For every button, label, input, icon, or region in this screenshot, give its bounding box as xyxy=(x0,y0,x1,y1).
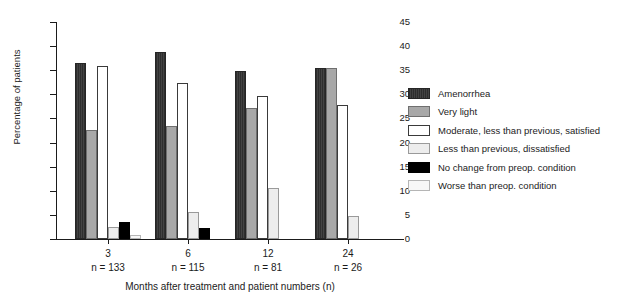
x-group-label: 24 xyxy=(313,248,383,259)
y-tick-mark xyxy=(50,215,56,216)
bar xyxy=(75,63,86,239)
x-tick-mark xyxy=(188,239,189,244)
plot-area: 051015202530354045 Percentage of patient… xyxy=(0,0,410,302)
bar-group xyxy=(75,22,141,239)
x-tick-mark xyxy=(268,239,269,244)
y-axis-label: Percentage of patients xyxy=(12,37,22,157)
y-tick-mark xyxy=(50,239,56,240)
bar xyxy=(257,96,268,239)
y-tick-mark xyxy=(50,143,56,144)
x-tick-mark xyxy=(108,239,109,244)
legend-item: No change from preop. condition xyxy=(408,158,622,177)
bar xyxy=(348,216,359,239)
y-tick-mark xyxy=(50,46,56,47)
legend-swatch-icon xyxy=(408,180,430,191)
bar xyxy=(97,66,108,239)
legend-swatch-icon xyxy=(408,143,430,154)
x-tick-mark xyxy=(348,239,349,244)
x-axis-label: Months after treatment and patient numbe… xyxy=(56,281,404,292)
legend-item-label: Amenorrhea xyxy=(438,88,490,99)
bar-group xyxy=(155,22,221,239)
x-group-count-label: n = 133 xyxy=(68,262,148,273)
legend-swatch-icon xyxy=(408,125,430,136)
bar-group xyxy=(235,22,301,239)
legend-item: Amenorrhea xyxy=(408,84,622,103)
legend-item-label: No change from preop. condition xyxy=(438,162,576,173)
bar xyxy=(108,227,119,239)
y-tick-mark xyxy=(50,94,56,95)
legend-item: Very light xyxy=(408,103,622,122)
bar xyxy=(337,105,348,239)
x-group-label: 3 xyxy=(73,248,143,259)
bar xyxy=(199,228,210,239)
chart-legend: AmenorrheaVery lightModerate, less than … xyxy=(408,84,622,195)
bar xyxy=(235,71,246,239)
x-group-count-label: n = 26 xyxy=(308,262,388,273)
y-tick-mark xyxy=(50,191,56,192)
legend-item: Less than previous, dissatisfied xyxy=(408,140,622,159)
bar xyxy=(326,68,337,239)
y-tick-mark xyxy=(50,70,56,71)
bar xyxy=(155,52,166,239)
bar xyxy=(177,83,188,239)
legend-item-label: Less than previous, dissatisfied xyxy=(438,143,570,154)
bar xyxy=(86,130,97,239)
legend-item: Worse than preop. condition xyxy=(408,177,622,196)
bar xyxy=(130,235,141,239)
legend-item: Moderate, less than previous, satisfied xyxy=(408,121,622,140)
legend-item-label: Very light xyxy=(438,106,477,117)
x-group-count-label: n = 81 xyxy=(228,262,308,273)
bar xyxy=(315,68,326,239)
bar xyxy=(166,126,177,239)
legend-item-label: Worse than preop. condition xyxy=(438,180,557,191)
bar-group xyxy=(315,22,381,239)
legend-swatch-icon xyxy=(408,162,430,173)
bar xyxy=(268,188,279,239)
chart-figure: 051015202530354045 Percentage of patient… xyxy=(0,0,622,302)
y-tick-mark xyxy=(50,22,56,23)
legend-item-label: Moderate, less than previous, satisfied xyxy=(438,125,600,136)
y-tick-mark xyxy=(50,118,56,119)
x-group-count-label: n = 115 xyxy=(148,262,228,273)
legend-swatch-icon xyxy=(408,88,430,99)
x-group-label: 12 xyxy=(233,248,303,259)
y-tick-mark xyxy=(50,167,56,168)
bar xyxy=(119,222,130,239)
legend-swatch-icon xyxy=(408,106,430,117)
bar xyxy=(246,108,257,239)
bar-series-container xyxy=(57,22,404,239)
bar xyxy=(188,212,199,239)
x-group-label: 6 xyxy=(153,248,223,259)
